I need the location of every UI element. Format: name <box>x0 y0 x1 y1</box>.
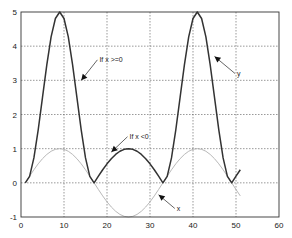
x-tick-label: 50 <box>232 221 241 230</box>
annotation-label: If x <0 <box>130 133 149 140</box>
x-tick-label: 60 <box>275 221 284 230</box>
annotation: y <box>215 56 242 78</box>
arrow-head-icon <box>81 74 87 81</box>
y-tick-label: 1 <box>13 145 18 154</box>
y-tick-label: 0 <box>13 179 18 188</box>
annotation: x <box>159 195 181 212</box>
arrow-head-icon <box>159 195 166 201</box>
annotation-label: If x >=0 <box>99 56 122 63</box>
x-tick-label: 30 <box>146 221 155 230</box>
annotation-label: y <box>237 70 241 78</box>
y-tick-label: 5 <box>13 8 18 17</box>
x-tick-label: 10 <box>60 221 69 230</box>
x-tick-label: 20 <box>103 221 112 230</box>
annotation: If x >=0 <box>81 56 123 80</box>
arrow-head-icon <box>215 56 222 62</box>
series-line-y <box>25 12 240 183</box>
y-tick-label: 3 <box>13 76 18 85</box>
annotations: If x >=0If x <0yx <box>81 56 241 212</box>
y-tick-label: 4 <box>13 42 18 51</box>
y-axis-ticks: -1012345 <box>10 8 18 222</box>
x-tick-label: 0 <box>19 221 24 230</box>
x-tick-label: 40 <box>189 221 198 230</box>
annotation-label: x <box>177 205 181 212</box>
x-axis-ticks: 0102030405060 <box>19 221 284 230</box>
grid <box>21 12 279 217</box>
y-tick-label: 2 <box>13 111 18 120</box>
line-chart: 0102030405060 -1012345 If x >=0If x <0yx <box>0 0 292 238</box>
y-tick-label: -1 <box>10 213 18 222</box>
